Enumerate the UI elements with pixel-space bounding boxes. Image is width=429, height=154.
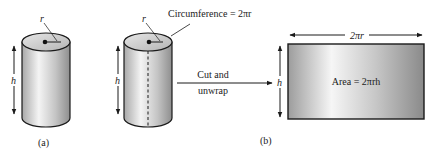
panel-b-label: (b) — [260, 135, 272, 147]
cylinder-surface-area-diagram: r h (a) r Circumference = 2πr h Cut and … — [0, 0, 429, 154]
cut-label-line2: unwrap — [198, 85, 228, 96]
cylinder-a-radius-label: r — [40, 13, 44, 24]
cut-label-line1: Cut and — [197, 69, 228, 80]
circumference-label: Circumference = 2πr — [168, 8, 252, 19]
rect-height-label: h — [277, 77, 282, 88]
cylinder-a — [22, 23, 70, 127]
cylinder-b — [124, 23, 190, 127]
circumference-leader — [171, 24, 190, 36]
cylinder-b-height-label: h — [115, 75, 120, 86]
cylinder-a-height-label: h — [11, 75, 16, 86]
cylinder-a-body — [22, 42, 70, 127]
area-label: Area = 2πrh — [332, 76, 380, 87]
panel-a-label: (a) — [38, 137, 49, 149]
rect-width-label: 2πr — [350, 30, 364, 41]
cylinder-b-radius-label: r — [142, 13, 146, 24]
